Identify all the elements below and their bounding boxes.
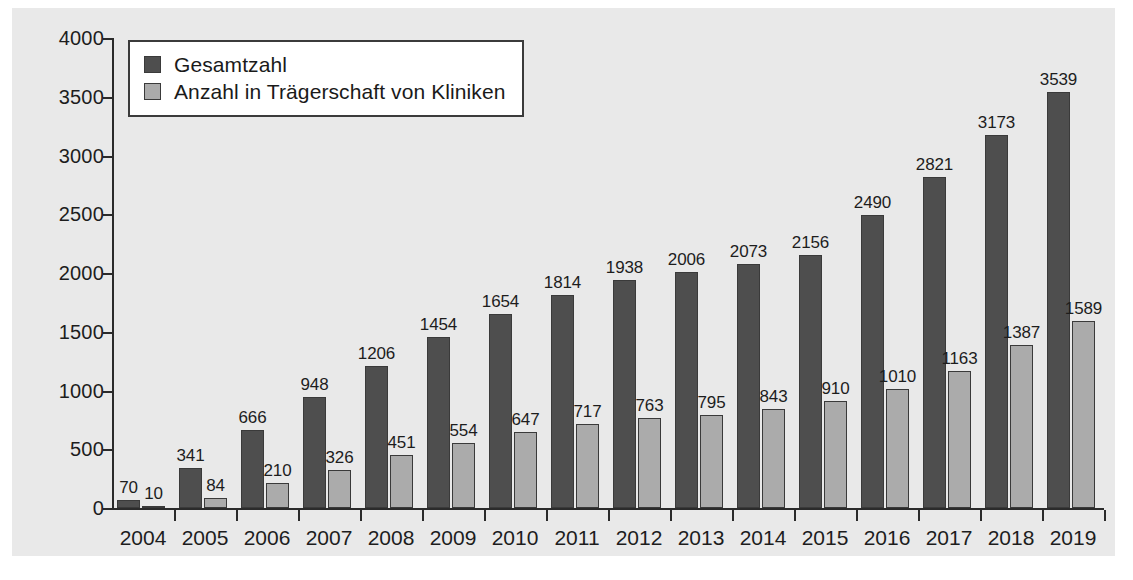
bar-value-label: 2821 — [916, 155, 953, 175]
x-tick-label: 2007 — [298, 526, 360, 550]
x-tick-mark — [546, 510, 548, 521]
x-tick-mark — [174, 510, 176, 521]
bar-total[interactable]: 70 — [117, 500, 140, 508]
x-tick-label: 2017 — [918, 526, 980, 550]
bar-value-label: 326 — [325, 448, 353, 468]
bar-total[interactable]: 2006 — [675, 272, 698, 508]
bar-total[interactable]: 1206 — [365, 366, 388, 508]
bar-total[interactable]: 666 — [241, 430, 264, 508]
bar-clinic[interactable]: 763 — [638, 418, 661, 508]
x-tick-label: 2014 — [732, 526, 794, 550]
bar-value-label: 70 — [119, 478, 138, 498]
bar-clinic[interactable]: 843 — [762, 409, 785, 508]
x-tick-mark — [918, 510, 920, 521]
bar-total[interactable]: 1654 — [489, 314, 512, 508]
legend-item[interactable]: Anzahl in Trägerschaft von Kliniken — [144, 78, 506, 105]
y-tick-mark — [103, 156, 112, 158]
bar-total[interactable]: 341 — [179, 468, 202, 508]
x-tick-label: 2004 — [112, 526, 174, 550]
bar-value-label: 84 — [206, 476, 225, 496]
chart-panel: 05001000150020002500300035004000 7010341… — [12, 8, 1115, 556]
bar-clinic[interactable]: 10 — [142, 506, 165, 508]
x-tick-mark — [236, 510, 238, 521]
bar-clinic[interactable]: 910 — [824, 401, 847, 508]
legend-swatch-icon — [144, 83, 161, 100]
bar-value-label: 666 — [238, 408, 266, 428]
bar-value-label: 1206 — [358, 344, 395, 364]
x-tick-label: 2009 — [422, 526, 484, 550]
bar-value-label: 795 — [697, 393, 725, 413]
bar-clinic[interactable]: 210 — [266, 483, 289, 508]
y-tick-mark — [103, 332, 112, 334]
bar-value-label: 3173 — [978, 113, 1015, 133]
legend-item[interactable]: Gesamtzahl — [144, 51, 506, 78]
bar-value-label: 1454 — [420, 315, 457, 335]
x-tick-mark — [670, 510, 672, 521]
legend-swatch-icon — [144, 56, 161, 73]
bar-total[interactable]: 2156 — [799, 255, 822, 508]
bar-group: 24901010 — [856, 38, 918, 508]
bar-value-label: 1654 — [482, 292, 519, 312]
bar-value-label: 554 — [449, 421, 477, 441]
x-tick-mark — [732, 510, 734, 521]
x-tick-mark — [980, 510, 982, 521]
x-tick-label: 2006 — [236, 526, 298, 550]
x-tick-label: 2008 — [360, 526, 422, 550]
bar-value-label: 1814 — [544, 273, 581, 293]
y-tick-mark — [103, 97, 112, 99]
y-tick-mark — [103, 508, 112, 510]
y-tick-label: 0 — [93, 497, 104, 520]
bar-group: 2073843 — [732, 38, 794, 508]
bar-value-label: 1387 — [1003, 323, 1040, 343]
bar-clinic[interactable]: 554 — [452, 443, 475, 508]
bar-total[interactable]: 3173 — [985, 135, 1008, 508]
bar-clinic[interactable]: 795 — [700, 415, 723, 508]
bar-total[interactable]: 2073 — [737, 264, 760, 508]
y-tick-mark — [103, 214, 112, 216]
bar-value-label: 1163 — [941, 349, 977, 369]
bar-value-label: 647 — [511, 410, 539, 430]
y-tick-mark — [103, 449, 112, 451]
bar-group: 2156910 — [794, 38, 856, 508]
x-tick-mark — [298, 510, 300, 521]
bar-total[interactable]: 2490 — [861, 215, 884, 508]
bar-total[interactable]: 1938 — [613, 280, 636, 508]
y-tick-label: 1000 — [59, 380, 104, 403]
bar-value-label: 763 — [635, 396, 663, 416]
bar-value-label: 2006 — [668, 250, 705, 270]
legend-label: Anzahl in Trägerschaft von Kliniken — [174, 80, 506, 104]
bar-clinic[interactable]: 451 — [390, 455, 413, 508]
y-tick-label: 1500 — [59, 321, 104, 344]
bar-clinic[interactable]: 326 — [328, 470, 351, 508]
y-tick-label: 3000 — [59, 145, 104, 168]
bar-value-label: 843 — [759, 387, 787, 407]
bar-clinic[interactable]: 1589 — [1072, 321, 1095, 508]
bar-value-label: 341 — [176, 446, 204, 466]
bar-total[interactable]: 1454 — [427, 337, 450, 508]
bar-value-label: 451 — [387, 433, 415, 453]
x-tick-label: 2012 — [608, 526, 670, 550]
bar-clinic[interactable]: 1163 — [948, 371, 971, 508]
bar-value-label: 1589 — [1065, 299, 1102, 319]
x-tick-label: 2015 — [794, 526, 856, 550]
chart-legend: GesamtzahlAnzahl in Trägerschaft von Kli… — [128, 40, 524, 117]
bar-clinic[interactable]: 1010 — [886, 389, 909, 508]
bar-clinic[interactable]: 717 — [576, 424, 599, 508]
bar-value-label: 2073 — [730, 242, 767, 262]
y-tick-label: 2500 — [59, 203, 104, 226]
bar-total[interactable]: 948 — [303, 397, 326, 508]
bar-total[interactable]: 1814 — [551, 295, 574, 508]
bar-total[interactable]: 2821 — [923, 177, 946, 508]
x-tick-label: 2018 — [980, 526, 1042, 550]
y-tick-mark — [103, 38, 112, 40]
bar-group: 35391589 — [1042, 38, 1104, 508]
bar-clinic[interactable]: 647 — [514, 432, 537, 508]
y-tick-label: 4000 — [59, 27, 104, 50]
bar-value-label: 717 — [573, 402, 601, 422]
bar-clinic[interactable]: 1387 — [1010, 345, 1033, 508]
bar-group: 2006795 — [670, 38, 732, 508]
x-tick-label: 2019 — [1042, 526, 1104, 550]
y-tick-label: 500 — [70, 438, 104, 461]
bar-clinic[interactable]: 84 — [204, 498, 227, 508]
y-tick-mark — [103, 391, 112, 393]
